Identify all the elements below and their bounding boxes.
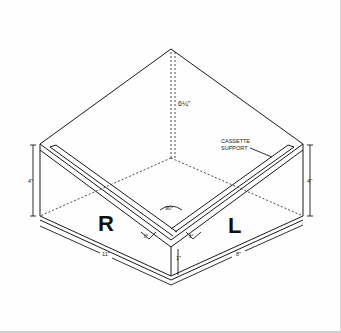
left-height-label: 4" (28, 178, 33, 184)
right-tilt-label: 8° (189, 234, 194, 239)
top-right-edge (171, 49, 303, 144)
right-length-label: 8" (236, 251, 241, 257)
apex-height-label: 6¼" (178, 100, 191, 107)
front-lip-label: 1" (176, 255, 181, 261)
isometric-box-diagram: 6¼" CASSETTE SUPPORT 4" 4" 11" 8" 1" 90°… (0, 0, 341, 333)
back-right-floor-hidden (171, 158, 303, 216)
corner-angle-label: 90° (165, 205, 173, 211)
callout-line2: SUPPORT (221, 145, 248, 151)
callout-line1: CASSETTE (221, 138, 250, 144)
right-height-label: 4" (307, 178, 312, 184)
left-tilt-label: 8° (144, 234, 149, 239)
top-left-edge (40, 49, 171, 144)
left-side-letter: L (228, 213, 241, 238)
left-length-label: 11" (102, 251, 110, 257)
right-side-letter: R (98, 211, 114, 236)
